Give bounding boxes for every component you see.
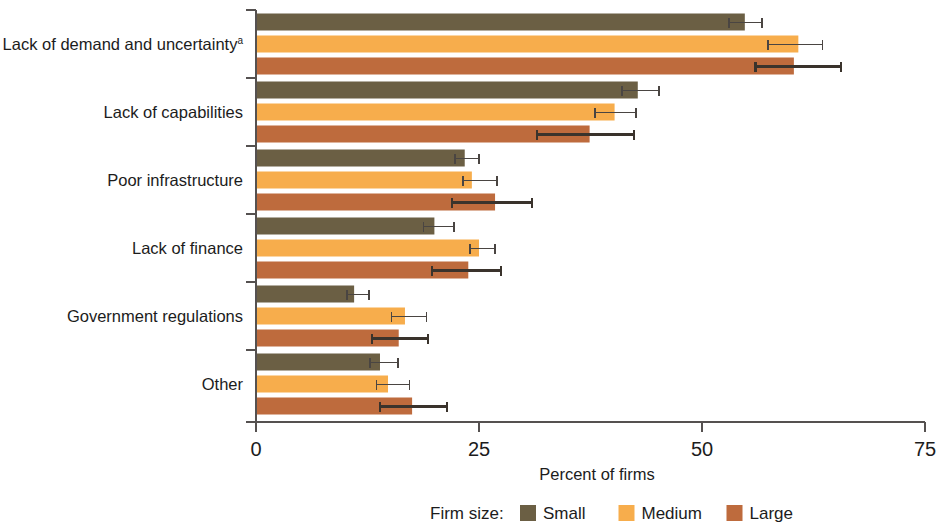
x-tick-label-2: 50: [691, 438, 713, 460]
bars-layer: [256, 14, 798, 415]
x-tick-label-0: 0: [250, 438, 261, 460]
x-tick-labels: 0255075: [250, 438, 936, 460]
category-label-5: Other: [202, 375, 244, 393]
legend-swatch-medium: [619, 505, 635, 521]
bar-small-5: [256, 354, 380, 371]
grouped-bar-chart: Lack of demand and uncertaintyaLack of c…: [0, 0, 942, 532]
bar-small-0: [256, 14, 745, 31]
legend-label-small: Small: [543, 504, 586, 523]
category-labels: Lack of demand and uncertaintyaLack of c…: [3, 35, 244, 393]
bar-large-0: [256, 58, 794, 75]
legend-title: Firm size:: [430, 504, 504, 523]
x-tick-label-1: 25: [468, 438, 490, 460]
error-bars-layer: [347, 18, 841, 412]
bar-medium-5: [256, 376, 388, 393]
bar-small-3: [256, 218, 434, 235]
bar-small-1: [256, 82, 638, 99]
category-label-4: Government regulations: [67, 307, 243, 325]
bar-small-4: [256, 286, 354, 303]
legend-label-medium: Medium: [642, 504, 702, 523]
category-label-superscript: a: [237, 35, 243, 46]
bar-medium-1: [256, 104, 615, 121]
category-label-0: Lack of demand and uncertaintya: [3, 35, 244, 53]
category-label-1: Lack of capabilities: [104, 103, 243, 121]
bar-medium-3: [256, 240, 479, 257]
x-axis-title: Percent of firms: [539, 465, 655, 483]
bar-small-2: [256, 150, 465, 167]
chart-container: Lack of demand and uncertaintyaLack of c…: [0, 0, 942, 532]
bar-medium-2: [256, 172, 472, 189]
legend-label-large: Large: [750, 504, 793, 523]
category-label-3: Lack of finance: [132, 239, 243, 257]
x-tick-label-3: 75: [914, 438, 936, 460]
bar-medium-0: [256, 36, 798, 53]
legend: Firm size:SmallMediumLarge: [430, 504, 793, 523]
legend-swatch-large: [727, 505, 743, 521]
bar-medium-4: [256, 308, 405, 325]
legend-swatch-small: [520, 505, 536, 521]
category-label-2: Poor infrastructure: [107, 171, 243, 189]
